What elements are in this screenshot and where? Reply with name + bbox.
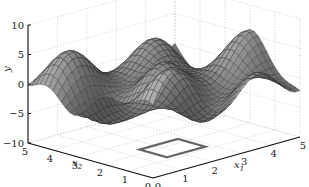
svg-text:5: 5 (22, 146, 28, 157)
surface-mesh (28, 30, 300, 125)
svg-text:−5: −5 (9, 108, 24, 119)
y-axis-label: y (1, 66, 12, 73)
svg-text:5: 5 (18, 49, 24, 60)
svg-text:0: 0 (155, 181, 161, 187)
svg-text:1: 1 (122, 174, 128, 185)
svg-text:2: 2 (212, 165, 218, 176)
svg-text:0: 0 (145, 181, 151, 187)
svg-text:4: 4 (270, 148, 276, 159)
svg-text:4: 4 (47, 153, 53, 164)
svg-text:10: 10 (11, 20, 24, 31)
surface-plot: −10−50510012345012345 y x2 x1 (0, 0, 309, 187)
floor-marker-square (140, 139, 206, 157)
svg-text:1: 1 (182, 173, 188, 184)
svg-text:0: 0 (18, 79, 24, 90)
svg-text:2: 2 (97, 167, 103, 178)
svg-text:5: 5 (300, 140, 306, 151)
